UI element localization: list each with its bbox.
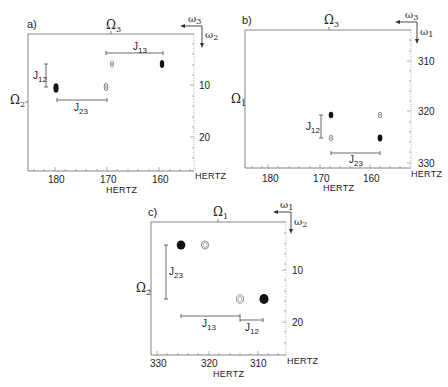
y-unit-a: HERTZ [195, 171, 227, 181]
y-tick-c-10: 10 [292, 265, 304, 276]
peak-positive [378, 135, 383, 142]
panel-tag-b: b) [242, 14, 252, 26]
y-tick-a-10: 10 [199, 80, 211, 91]
corner-h-label-b: ω3 [405, 9, 418, 22]
y-tick-b-330: 330 [418, 158, 435, 169]
panel-c: c) Ω1 Ω2 ω1 ω2 330 320 310 HERTZ HERTZ [136, 199, 319, 379]
x-tick-a-170: 170 [100, 174, 117, 185]
svg-text:J23: J23 [349, 154, 363, 168]
corner-v-label-c: ω2 [294, 216, 307, 229]
peak-negative [104, 83, 108, 91]
panel-tag-c: c) [148, 206, 157, 218]
top-axis-label-a: Ω3 [106, 18, 121, 34]
top-axis-label-b: Ω3 [324, 13, 339, 29]
x-tick-c-310: 310 [250, 358, 267, 369]
svg-text:J23: J23 [74, 102, 88, 116]
corner-h-label-c: ω1 [280, 199, 293, 212]
y-tick-b-310: 310 [418, 56, 435, 67]
x-tick-c-320: 320 [201, 358, 218, 369]
x-tick-a-180: 180 [48, 174, 65, 185]
peak-positive [160, 60, 164, 68]
peak-negative [378, 112, 382, 118]
left-axis-label-c: Ω2 [136, 281, 151, 297]
y-tick-a-20: 20 [199, 132, 211, 143]
y-tick-b-320: 320 [418, 106, 435, 117]
left-axis-label-a: Ω2 [10, 93, 25, 109]
x-tick-b-160: 160 [363, 173, 380, 184]
top-axis-label-c: Ω1 [213, 205, 228, 221]
x-unit-b: HERTZ [323, 183, 355, 193]
coupling-j12-c [240, 318, 263, 322]
peak-negative [201, 241, 208, 249]
corner-v-label-a: ω2 [205, 29, 218, 42]
corner-v-label-b: ω1 [420, 26, 433, 39]
peak-positive [259, 294, 268, 304]
svg-text:J13: J13 [202, 318, 216, 332]
x-unit-c: HERTZ [213, 369, 245, 379]
coupling-j13-c [181, 314, 240, 318]
peak-positive [177, 240, 186, 249]
peak-negative [329, 135, 333, 141]
svg-text:J12: J12 [245, 322, 259, 336]
y-unit-b: HERTZ [411, 169, 443, 179]
peak-negative [236, 295, 243, 303]
svg-text:J23: J23 [169, 266, 183, 280]
svg-text:J12: J12 [306, 121, 320, 135]
x-tick-c-330: 330 [150, 358, 167, 369]
coupling-j23-c [164, 245, 168, 299]
peak-positive [53, 83, 58, 93]
y-unit-c: HERTZ [287, 356, 319, 366]
panel-b: b) Ω3 Ω1 ω3 ω1 180 170 160 HERTZ HERTZ [231, 9, 443, 193]
peak-positive [329, 112, 334, 118]
x-tick-b-180: 180 [262, 173, 279, 184]
left-axis-label-b: Ω1 [231, 92, 246, 108]
coupling-j23-a [57, 98, 107, 102]
y-tick-c-20: 20 [292, 317, 304, 328]
svg-text:J12: J12 [33, 70, 47, 84]
peak-negative [110, 61, 113, 67]
corner-h-label-a: ω3 [188, 13, 201, 26]
x-unit-a: HERTZ [106, 185, 138, 195]
figure: a) Ω3 Ω2 ω3 ω2 180 170 160 [0, 0, 448, 387]
panel-tag-a: a) [27, 18, 37, 30]
panel-a: a) Ω3 Ω2 ω3 ω2 180 170 160 [10, 13, 227, 195]
coupling-j23-b [331, 151, 380, 155]
x-tick-a-160: 160 [152, 174, 169, 185]
